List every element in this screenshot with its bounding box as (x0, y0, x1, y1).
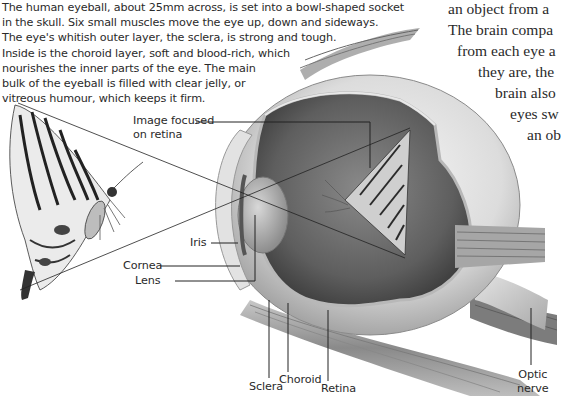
label-line: on retina (133, 128, 214, 142)
label-line: nerve (517, 382, 549, 396)
label-cornea: Cornea (123, 259, 162, 273)
label-retina: Retina (321, 382, 356, 396)
side-line: an ob (527, 124, 561, 145)
intro-line: in the skull. Six small muscles move the… (2, 15, 422, 30)
side-line: from each eye a (457, 40, 556, 61)
side-line: an object from a (448, 0, 549, 19)
label-line: Image focused (133, 114, 214, 128)
side-line: The brain compa (448, 19, 553, 40)
intro-line: The human eyeball, about 25mm across, is… (2, 0, 422, 15)
lateral-muscle (455, 225, 545, 268)
intro-line: The eye's whitish outer layer, the scler… (2, 30, 422, 45)
intro-line: vitreous humour, which keeps it firm. (2, 91, 422, 106)
label-image-focused: Image focused on retina (133, 114, 214, 142)
label-optic-nerve: Optic nerve (517, 368, 549, 396)
label-lens: Lens (135, 274, 160, 288)
side-line: they are, the (478, 61, 554, 82)
side-line: brain also (495, 82, 556, 103)
lens-shape (238, 177, 288, 253)
intro-line: Inside is the choroid layer, soft and bl… (2, 46, 422, 61)
label-iris: Iris (190, 236, 206, 250)
label-sclera: Sclera (249, 380, 283, 394)
side-line: eyes sw (510, 103, 559, 124)
label-line: Optic (517, 368, 549, 382)
label-choroid: Choroid (279, 373, 321, 387)
intro-line: nourishes the inner parts of the eye. Th… (2, 61, 422, 76)
intro-line: bulk of the eyeball is filled with clear… (2, 76, 422, 91)
intro-paragraph: The human eyeball, about 25mm across, is… (2, 0, 422, 106)
